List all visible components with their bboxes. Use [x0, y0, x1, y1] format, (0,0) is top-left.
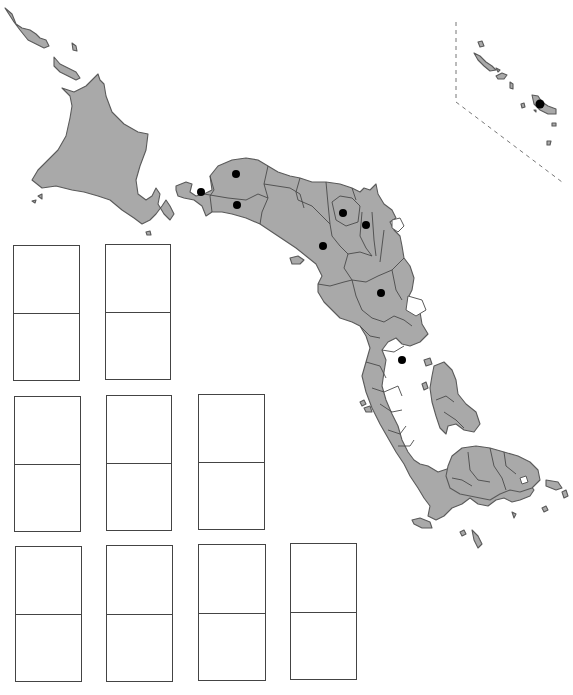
capital-dot [398, 356, 406, 364]
island-e-2 [424, 358, 432, 366]
answer-box-5[interactable] [198, 394, 265, 530]
inset-island-10 [547, 141, 551, 145]
island-se-2 [562, 490, 568, 498]
capital-dot [232, 170, 240, 178]
capital-dot [362, 221, 370, 229]
inset-island-4 [496, 73, 507, 79]
inset-island-9 [552, 123, 556, 126]
answer-box-bottom-cell[interactable] [14, 313, 79, 380]
capital-dot [233, 201, 241, 209]
island-nw-3 [54, 57, 80, 80]
capital-dot [197, 188, 205, 196]
island-s-4 [512, 512, 516, 518]
answer-box-bottom-cell[interactable] [16, 614, 81, 681]
island-e-1 [422, 382, 428, 390]
island-west-small-1 [38, 194, 42, 199]
inset-island-1 [478, 41, 484, 47]
island-s-2 [472, 530, 482, 548]
answer-box-bottom-cell[interactable] [106, 312, 170, 379]
inset-island-6 [521, 103, 525, 108]
answer-box-7[interactable] [106, 545, 173, 682]
answer-box-top-cell[interactable] [15, 397, 80, 465]
answer-box-bottom-cell[interactable] [15, 464, 80, 531]
answer-box-top-cell[interactable] [106, 245, 170, 313]
answer-box-8[interactable] [198, 544, 266, 681]
answer-box-bottom-cell[interactable] [107, 463, 171, 530]
island-nw-1 [5, 8, 49, 48]
answer-box-top-cell[interactable] [14, 246, 79, 314]
island-s-5 [542, 506, 548, 512]
island-w-2 [360, 400, 366, 406]
answer-box-top-cell[interactable] [199, 395, 264, 463]
answer-box-6[interactable] [15, 546, 82, 682]
answer-box-1[interactable] [13, 245, 80, 381]
answer-box-top-cell[interactable] [107, 546, 172, 615]
island-se-1 [546, 480, 562, 490]
answer-box-bottom-cell[interactable] [199, 462, 264, 529]
inset-island-3 [496, 68, 500, 72]
answer-box-top-cell[interactable] [199, 545, 265, 614]
answer-box-bottom-cell[interactable] [107, 614, 172, 682]
western-peninsula [32, 74, 174, 224]
inset-frame [456, 22, 562, 182]
answer-box-bottom-cell[interactable] [291, 612, 356, 680]
capital-dot [536, 100, 545, 109]
answer-box-2[interactable] [105, 244, 171, 380]
answer-box-9[interactable] [290, 543, 357, 680]
capital-dot [339, 209, 347, 217]
province-map [0, 0, 573, 695]
inset-island-5 [510, 82, 513, 89]
island-west-small-2 [32, 200, 36, 203]
east-peninsula [430, 362, 480, 434]
answer-box-4[interactable] [106, 395, 172, 531]
inset-island-8 [534, 110, 536, 112]
island-west-small-3 [146, 231, 151, 235]
answer-box-bottom-cell[interactable] [199, 613, 265, 681]
answer-box-top-cell[interactable] [16, 547, 81, 615]
answer-box-3[interactable] [14, 396, 81, 532]
capital-dot [319, 242, 327, 250]
island-s-3 [460, 530, 466, 536]
capital-dot [377, 289, 385, 297]
island-nw-2 [72, 43, 77, 51]
answer-box-top-cell[interactable] [107, 396, 171, 464]
island-w-1 [290, 256, 304, 264]
island-w-3 [364, 406, 372, 412]
lake-se [520, 476, 528, 484]
inset-island-2 [474, 53, 496, 71]
answer-box-top-cell[interactable] [291, 544, 356, 613]
island-s-1 [412, 518, 432, 528]
